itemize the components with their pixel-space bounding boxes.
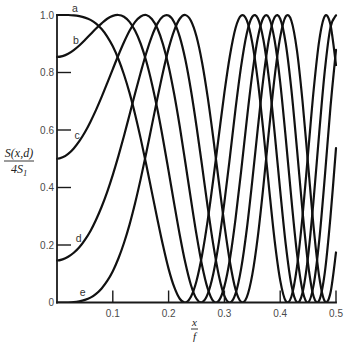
x-tick-label: 0.2 (162, 308, 176, 319)
y-tick-label: 0.8 (40, 67, 54, 78)
y-axis-title-numerator: S(x,d) (5, 146, 33, 160)
x-axis-title: x f (191, 316, 198, 343)
series-layer (57, 15, 336, 303)
curve-label-a: a (72, 2, 78, 14)
x-tick-label: 0.5 (329, 308, 343, 319)
y-tick-label: 0.4 (40, 182, 54, 193)
chart: 0 0.2 0.4 0.6 0.8 1.0 0.1 0.2 0.3 0.4 0.… (0, 0, 349, 348)
curve-label-e: e (80, 286, 86, 298)
y-axis-title-denominator: 4S1 (11, 162, 27, 178)
y-tick-label: 1.0 (40, 10, 54, 21)
x-tick-label: 0.1 (106, 308, 120, 319)
y-axis-title: S(x,d) 4S1 (4, 146, 34, 178)
curve-label-c: c (74, 129, 79, 141)
curve-label-d: d (76, 232, 82, 244)
series-a-curve (57, 15, 336, 303)
y-axis-title-denominator-main: 4S (11, 162, 23, 176)
x-axis-title-denominator: f (193, 330, 198, 342)
series-e-curve (57, 15, 336, 303)
series-b-curve (57, 15, 336, 303)
y-tick-label: 0.2 (40, 240, 54, 251)
y-tick-label: 0 (48, 297, 54, 308)
y-tick-label: 0.6 (40, 125, 54, 136)
curve-label-b: b (73, 34, 79, 46)
x-tick-label: 0.3 (217, 308, 231, 319)
y-axis-title-denominator-subscript: 1 (23, 168, 27, 178)
series-d-curve (57, 15, 336, 302)
x-axis-title-numerator: x (191, 316, 197, 328)
x-tick-label: 0.4 (273, 308, 287, 319)
series-c-curve (57, 15, 336, 303)
